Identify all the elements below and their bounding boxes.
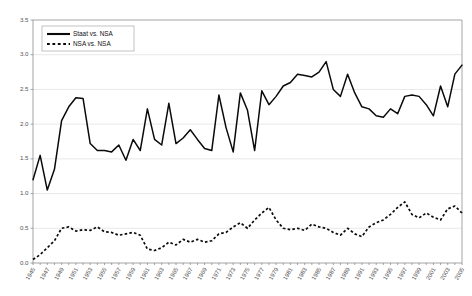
x-axis-tick-label: 1981 — [282, 266, 294, 281]
y-axis-tick-label: 2.5 — [20, 85, 29, 92]
x-axis-tick-label: 1967 — [182, 266, 194, 281]
x-axis-tick-label: 1961 — [139, 266, 151, 281]
x-axis-tick-label: 1963 — [153, 266, 165, 281]
x-axis-tick-label: 1991 — [353, 266, 365, 281]
x-axis-tick-label: 1995 — [382, 266, 394, 281]
y-axis-labels: 0.00.51.01.52.02.53.03.5 — [20, 16, 29, 266]
data-series — [33, 62, 462, 260]
x-axis-tick-label: 1987 — [325, 266, 337, 281]
y-axis-tick-label: 2.0 — [20, 120, 29, 127]
x-axis-tick-label: 1993 — [368, 266, 380, 281]
x-axis-tick-label: 1965 — [167, 266, 179, 281]
x-axis-tick-label: 1945 — [24, 266, 36, 281]
x-axis-tick-label: 2003 — [439, 266, 451, 281]
y-axis-tick-label: 0.5 — [20, 224, 29, 231]
y-axis-tick-label: 3.0 — [20, 50, 29, 57]
x-axis-tick-label: 2005 — [453, 266, 465, 281]
chart-legend: Staat vs. NSANSA vs. NSA — [42, 26, 134, 51]
x-axis-tick-label: 1959 — [125, 266, 137, 281]
x-axis-tick-label: 1977 — [253, 266, 265, 281]
x-axis-tick-label: 1979 — [268, 266, 280, 281]
x-axis-tick-label: 1985 — [310, 266, 322, 281]
y-axis-tick-label: 1.5 — [20, 154, 29, 161]
x-axis-tick-label: 1973 — [225, 266, 237, 281]
x-axis-tick-label: 1951 — [67, 266, 79, 281]
y-axis-tick-label: 0.0 — [20, 259, 29, 266]
x-axis-tick-label: 1971 — [210, 266, 222, 281]
series-line-solid — [33, 62, 462, 190]
x-axis-tick-label: 1969 — [196, 266, 208, 281]
x-axis-tick-label: 1997 — [396, 266, 408, 281]
x-axis-tick-label: 1955 — [96, 266, 108, 281]
x-axis-tick-label: 1947 — [39, 266, 51, 281]
x-axis-tick-label: 1953 — [82, 266, 94, 281]
chart-container: 0.00.51.01.52.02.53.03.5 194519471949195… — [0, 0, 472, 296]
legend-label: NSA vs. NSA — [73, 40, 111, 47]
y-axis-tick-label: 3.5 — [20, 16, 29, 23]
line-chart: 0.00.51.01.52.02.53.03.5 194519471949195… — [0, 0, 472, 296]
legend-label: Staat vs. NSA — [73, 30, 114, 37]
x-axis-labels: 1945194719491951195319551957195919611963… — [24, 266, 465, 281]
x-axis-tick-label: 1957 — [110, 266, 122, 281]
x-axis-tick-label: 1999 — [411, 266, 423, 281]
x-axis-tick-label: 2001 — [425, 266, 437, 281]
x-axis-tick-label: 1949 — [53, 266, 65, 281]
x-axis-tick-label: 1989 — [339, 266, 351, 281]
series-line-dashed — [33, 202, 462, 260]
y-axis-tick-label: 1.0 — [20, 189, 29, 196]
x-axis-tick-label: 1975 — [239, 266, 251, 281]
x-axis-tick-label: 1983 — [296, 266, 308, 281]
